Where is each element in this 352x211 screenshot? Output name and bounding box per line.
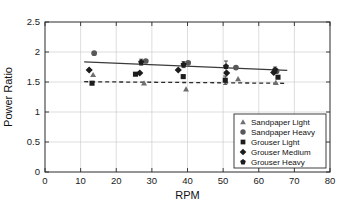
marker-pentagon	[272, 67, 278, 73]
marker-square	[89, 81, 94, 86]
marker-circle	[91, 50, 97, 56]
svg-text:0: 0	[42, 175, 47, 186]
series-grouser-heavy	[138, 59, 278, 73]
marker-triangle	[90, 72, 96, 77]
chart-figure: 0102030405060708000.511.522.5 RPM Power …	[0, 0, 352, 211]
svg-text:40: 40	[182, 175, 193, 186]
x-axis-label: RPM	[175, 189, 199, 201]
marker-triangle	[183, 86, 189, 91]
marker-square	[181, 74, 186, 79]
svg-text:0.5: 0.5	[27, 136, 40, 147]
marker-triangle	[141, 80, 147, 85]
series-sandpaper-heavy	[91, 50, 279, 74]
chart-legend: Sandpaper LightSandpaper HeavyGrouser Li…	[234, 114, 326, 168]
svg-text:10: 10	[75, 175, 86, 186]
marker-triangle	[235, 76, 241, 81]
svg-text:30: 30	[147, 175, 158, 186]
y-axis-label: Power Ratio	[2, 67, 14, 127]
svg-text:1.5: 1.5	[27, 76, 40, 87]
legend-label: Grouser Medium	[251, 148, 311, 157]
error-bars	[139, 59, 277, 84]
marker-pentagon	[223, 63, 229, 69]
marker-square	[275, 75, 280, 80]
marker-diamond	[86, 66, 93, 73]
marker-circle	[185, 60, 191, 66]
svg-text:80: 80	[325, 175, 336, 186]
svg-text:2.5: 2.5	[27, 16, 40, 27]
marker-square	[241, 140, 246, 145]
svg-text:2: 2	[35, 46, 40, 57]
svg-text:70: 70	[289, 175, 300, 186]
marker-circle	[240, 129, 245, 134]
legend-label: Grouser Light	[251, 138, 300, 147]
legend-label: Grouser Heavy	[251, 158, 305, 167]
svg-text:50: 50	[218, 175, 229, 186]
marker-circle	[233, 65, 239, 71]
data-points	[86, 50, 281, 91]
series-grouser-light	[89, 72, 280, 86]
svg-text:0: 0	[35, 166, 40, 177]
marker-diamond	[223, 69, 230, 76]
marker-square	[223, 78, 228, 83]
scatter-plot: 0102030405060708000.511.522.5 RPM Power …	[0, 0, 352, 211]
svg-text:1: 1	[35, 106, 40, 117]
svg-text:20: 20	[111, 175, 122, 186]
marker-diamond	[175, 66, 182, 73]
legend-label: Sandpaper Heavy	[251, 128, 315, 137]
legend-label: Sandpaper Light	[251, 118, 310, 127]
svg-text:60: 60	[253, 175, 264, 186]
